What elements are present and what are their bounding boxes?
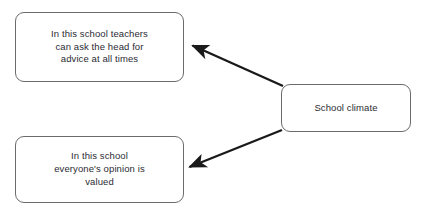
node-school-climate-label: School climate (306, 102, 385, 115)
edge-climate-to-teachers (193, 46, 284, 87)
node-teachers-advice[interactable]: In this school teachers can ask the head… (15, 12, 184, 82)
node-school-climate[interactable]: School climate (281, 84, 411, 132)
diagram-canvas: In this school teachers can ask the head… (0, 0, 427, 217)
node-everyone-opinion-valued-label: In this school everyone's opinion is val… (46, 150, 153, 188)
node-everyone-opinion-valued[interactable]: In this school everyone's opinion is val… (15, 136, 184, 203)
node-teachers-advice-label: In this school teachers can ask the head… (43, 28, 156, 66)
edge-climate-to-opinion (190, 130, 283, 167)
